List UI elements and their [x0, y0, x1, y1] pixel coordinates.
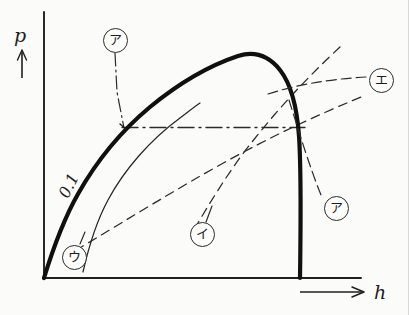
y-axis-arrow-icon — [18, 50, 27, 78]
y-axis-label: p — [14, 24, 26, 46]
callout-a-top[interactable]: ア — [103, 28, 128, 53]
x-axis-label: h — [374, 281, 386, 303]
leader-line-a-top — [115, 53, 124, 128]
ph-diagram-figure — [0, 0, 409, 315]
callout-e[interactable]: エ — [369, 68, 394, 93]
saturation-dome-curve — [44, 54, 301, 278]
callout-a-right[interactable]: ア — [324, 196, 349, 221]
isentrope-upper-dashed-curve — [192, 47, 340, 233]
leader-line-a-right — [289, 100, 321, 195]
leader-line-e — [268, 77, 366, 94]
x-axis-arrow-icon — [300, 287, 364, 297]
inner-thin-curve — [83, 103, 200, 272]
callout-u[interactable]: ウ — [62, 245, 87, 270]
leader-line-u — [80, 232, 85, 244]
callout-i[interactable]: イ — [190, 222, 215, 247]
